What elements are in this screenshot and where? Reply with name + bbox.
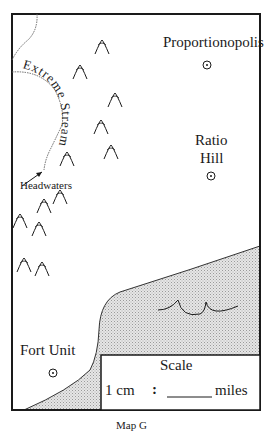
scale-title: Scale [160, 358, 192, 373]
city-label-proportionopolis: Proportionopolis [163, 35, 264, 50]
mountain-icon [13, 40, 122, 276]
map-caption: Map G [116, 420, 147, 431]
headwaters-label: Headwaters [20, 180, 72, 191]
stream-upper-branch [12, 14, 37, 60]
city-label-fort-unit: Fort Unit [20, 343, 75, 358]
scale-left: 1 cm [105, 383, 135, 398]
scale-separator: : [152, 382, 157, 397]
stream-label: Extreme Stream [21, 56, 74, 148]
city-label-hill: Hill [200, 151, 223, 166]
scale-unit: miles [215, 383, 248, 398]
map-canvas: Extreme Stream [0, 0, 273, 442]
city-label-ratio: Ratio [195, 133, 228, 148]
